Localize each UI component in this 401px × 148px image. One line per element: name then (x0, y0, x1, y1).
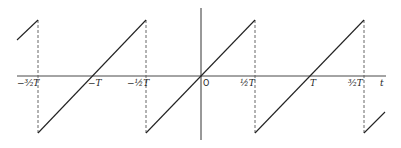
tick-label-neg-T: −T (88, 79, 102, 88)
origin-label: O (203, 80, 209, 88)
tick-label-half-T: ½T (240, 79, 255, 88)
tick-label-neg-three-halves-T: −³⁄₂T (17, 79, 39, 88)
diagram-graphic (0, 0, 401, 148)
tick-label-T: T (310, 79, 316, 88)
t-axis-label: t (380, 79, 384, 88)
tick-label-three-halves-T: ³⁄₂T (348, 79, 363, 88)
tick-label-neg-half-T: −½T (127, 79, 149, 88)
sawtooth-diagram: −³⁄₂T −T −½T O ½T T ³⁄₂T t (0, 0, 401, 148)
